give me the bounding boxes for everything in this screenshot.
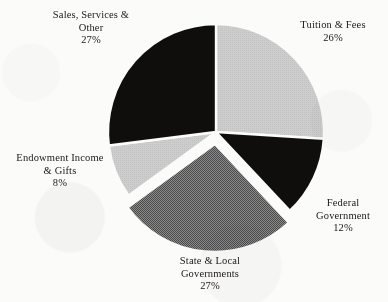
pie-label-line1: Tuition & Fees xyxy=(283,19,383,32)
pie-label-line2: Government xyxy=(300,210,386,223)
pie-label-tuition-and-fees: Tuition & Fees 26% xyxy=(283,19,383,44)
pie-label-percent: 12% xyxy=(300,222,386,235)
pie-label-line1: State & Local xyxy=(148,255,272,268)
pie-label-state-and-local-governments: State & Local Governments 27% xyxy=(148,255,272,293)
pie-chart: Sales, Services & Other 27% Tuition & Fe… xyxy=(0,0,388,302)
pie-label-endowment-income-and-gifts: Endowment Income & Gifts 8% xyxy=(1,152,119,190)
pie-label-percent: 27% xyxy=(148,280,272,293)
pie-label-line2: Governments xyxy=(148,268,272,281)
pie-label-percent: 27% xyxy=(12,34,170,47)
pie-label-percent: 8% xyxy=(1,177,119,190)
pie-label-line2: Other xyxy=(12,22,170,35)
pie-label-percent: 26% xyxy=(283,32,383,45)
pie-label-sales-services-and-other: Sales, Services & Other 27% xyxy=(12,9,170,47)
pie-label-line1: Federal xyxy=(300,197,386,210)
pie-label-federal-government: Federal Government 12% xyxy=(300,197,386,235)
pie-label-line1: Endowment Income xyxy=(1,152,119,165)
pie-label-line2: & Gifts xyxy=(1,165,119,178)
pie-label-line1: Sales, Services & xyxy=(12,9,170,22)
